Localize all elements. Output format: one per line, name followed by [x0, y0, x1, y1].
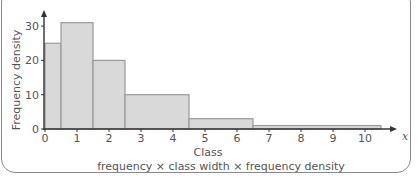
histogram-bar	[125, 95, 189, 129]
x-tick-label: 6	[234, 132, 241, 145]
y-tick-label: 10	[25, 89, 39, 102]
histogram-bar	[61, 23, 93, 129]
y-axis-arrow-icon	[41, 10, 47, 17]
x-tick-label: 7	[266, 132, 273, 145]
histogram-bar	[93, 60, 125, 129]
x-tick-label: 8	[298, 132, 305, 145]
histogram-bar	[189, 119, 253, 129]
histogram-bar	[45, 43, 61, 129]
y-tick-label: 0	[32, 123, 39, 136]
x-axis-arrow-icon	[390, 126, 397, 132]
x-tick-label: 4	[170, 132, 177, 145]
y-tick-label: 30	[25, 20, 39, 33]
chart-caption: frequency × class width × frequency dens…	[97, 160, 345, 173]
x-axis-title: Class	[194, 146, 223, 159]
x-tick-label: 3	[138, 132, 145, 145]
x-tick-label: 5	[202, 132, 209, 145]
x-tick-label: 2	[106, 132, 113, 145]
x-tick-label: 1	[74, 132, 81, 145]
x-tick-label: 9	[330, 132, 337, 145]
x-tick-label: 10	[358, 132, 372, 145]
y-tick-label: 20	[25, 54, 39, 67]
x-tick-label: 0	[42, 132, 49, 145]
histogram-chart: x0123456789100102030ClassFrequency densi…	[0, 0, 419, 183]
y-axis-title: Frequency density	[10, 29, 23, 130]
x-variable-label: x	[402, 130, 409, 143]
